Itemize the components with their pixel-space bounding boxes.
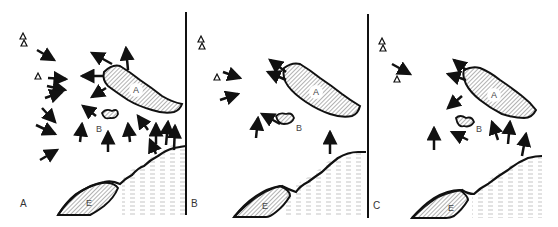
triangle-marker — [198, 36, 204, 42]
island-b — [456, 116, 474, 127]
island-b-label: B — [296, 123, 302, 133]
island-b — [102, 110, 118, 119]
panel-c: A B E C — [368, 0, 558, 227]
triangle-marker — [394, 76, 400, 82]
panel-a-label: A — [20, 198, 27, 209]
island-a-label: A — [133, 85, 139, 95]
panel-c-map — [368, 0, 558, 227]
panel-b-map — [186, 0, 368, 227]
landmass-e-label: E — [262, 201, 268, 211]
sea-region — [122, 143, 186, 215]
panel-b: A B E B — [186, 0, 368, 227]
landmass-e-label: E — [448, 203, 454, 213]
triangle-marker — [380, 45, 386, 51]
triangle-marker — [35, 73, 41, 79]
triangle-marker — [21, 40, 27, 46]
island-a-label: A — [491, 90, 497, 100]
panel-a-map — [0, 0, 186, 227]
panel-c-label: C — [373, 200, 380, 211]
panel-a: A B E A — [0, 0, 186, 227]
landmass-e-label: E — [86, 198, 92, 208]
triangle-marker — [379, 38, 385, 44]
triangle-marker — [20, 33, 26, 39]
island-a-label: A — [313, 87, 319, 97]
island-b-label: B — [96, 124, 102, 134]
landmass-e — [412, 190, 468, 218]
island-b-label: B — [476, 124, 482, 134]
sea-region — [284, 152, 366, 217]
triangle-marker — [199, 43, 205, 49]
panel-b-label: B — [191, 198, 198, 209]
triangle-marker — [214, 74, 220, 80]
